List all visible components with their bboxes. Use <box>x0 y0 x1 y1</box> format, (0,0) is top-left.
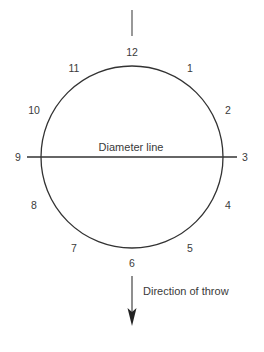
diameter-line-label: Diameter line <box>99 141 164 153</box>
clock-label-4: 4 <box>225 199 231 211</box>
clock-label-6: 6 <box>129 257 135 269</box>
clock-label-2: 2 <box>225 104 231 116</box>
clock-label-9: 9 <box>15 151 21 163</box>
clock-label-12: 12 <box>126 46 138 58</box>
clock-label-1: 1 <box>187 62 193 74</box>
clock-label-10: 10 <box>28 104 40 116</box>
clock-label-3: 3 <box>242 151 248 163</box>
clock-label-8: 8 <box>31 199 37 211</box>
clock-label-5: 5 <box>187 242 193 254</box>
clock-label-11: 11 <box>69 62 80 74</box>
throwing-circle-diagram: Diameter line 12 1 2 3 4 5 6 7 8 9 10 11… <box>0 0 264 352</box>
clock-label-7: 7 <box>71 242 77 254</box>
direction-of-throw-label: Direction of throw <box>143 285 229 297</box>
throw-direction-arrow <box>128 276 137 326</box>
